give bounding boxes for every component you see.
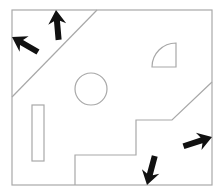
quarter-circle [152, 43, 176, 67]
arrow-right-icon [181, 128, 215, 154]
arrow-down-icon [138, 154, 163, 188]
center-circle [75, 73, 107, 105]
tall-rectangle [32, 105, 44, 161]
arrow-up-icon [47, 9, 68, 40]
outer-frame [12, 10, 212, 185]
floor-plan-diagram [0, 0, 219, 195]
bottom-right-stair [75, 82, 212, 185]
arrow-up-left-icon [8, 29, 43, 60]
